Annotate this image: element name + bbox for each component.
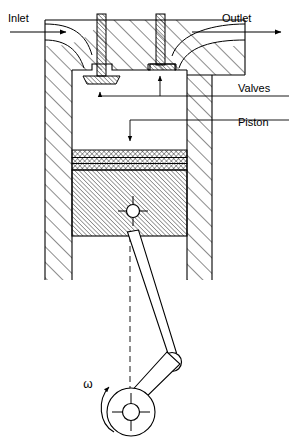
inlet-valve-head: [83, 76, 120, 84]
engine-diagram: ω Inlet Outlet Valves Piston: [0, 0, 290, 447]
outlet-label: Outlet: [222, 12, 251, 24]
piston-ring-3: [72, 164, 187, 171]
engine-diagram-canvas: ω Inlet Outlet Valves Piston: [0, 0, 290, 447]
piston: [72, 150, 187, 236]
inlet-label: Inlet: [8, 12, 29, 24]
crankshaft: [107, 388, 155, 436]
cylinder-wall-left-hatch: [45, 75, 72, 280]
valves-label: Valves: [238, 82, 271, 94]
outlet-valve-stem: [156, 14, 165, 65]
wrist-pin-bore: [127, 205, 140, 218]
piston-ring-2: [72, 158, 187, 164]
piston-ring-1: [72, 150, 187, 158]
piston-body: [72, 170, 187, 236]
outlet-valve-head: [148, 64, 176, 70]
crankshaft-centre-bore: [123, 404, 140, 421]
omega-label: ω: [83, 377, 92, 391]
cylinder-wall-right-hatch: [187, 75, 212, 280]
inlet-valve-stem: [97, 14, 106, 76]
piston-label: Piston: [238, 116, 269, 128]
